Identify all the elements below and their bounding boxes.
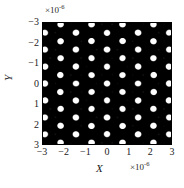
plot-area (42, 22, 172, 145)
x-axis-tick-label: −3 (37, 147, 48, 157)
interference-pattern-heatmap (43, 23, 171, 144)
x-axis-tick-label: 2 (148, 147, 153, 157)
x-axis-tick-label: 3 (170, 147, 175, 157)
y-axis-title: Y (2, 64, 14, 92)
y-axis-exponent-label: ×10-6 (45, 6, 65, 15)
y-axis-tick-label: 2 (20, 120, 39, 130)
x-axis-exponent-mantissa: ×10 (130, 162, 144, 172)
x-axis-tick-label: 0 (105, 147, 110, 157)
y-axis-tick-labels: −3−2−10123 (20, 22, 39, 145)
x-axis-tick-label: 1 (126, 147, 131, 157)
x-axis-title: X (96, 162, 103, 174)
x-axis-tick-label: −2 (58, 147, 69, 157)
x-axis-exponent-label: ×10-6 (130, 163, 150, 172)
x-axis-exponent-power: -6 (144, 160, 149, 167)
figure-container: ×10-6 Y −3−2−10123 −3−2−10123 X ×10-6 (0, 0, 184, 188)
y-axis-tick-label: −2 (20, 38, 39, 48)
y-axis-exponent-power: -6 (59, 3, 64, 10)
x-axis-tick-labels: −3−2−10123 (42, 147, 172, 161)
y-axis-tick-label: −3 (20, 17, 39, 27)
y-axis-tick-label: 0 (20, 79, 39, 89)
y-axis-tick-label: 1 (20, 99, 39, 109)
y-axis-tick-label: −1 (20, 58, 39, 68)
x-axis-tick-label: −1 (80, 147, 91, 157)
y-axis-exponent-mantissa: ×10 (45, 5, 59, 15)
